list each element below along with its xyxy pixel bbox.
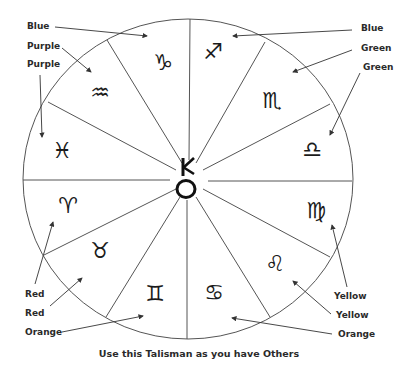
label-orange-cancer: Orange <box>338 329 375 339</box>
scorpio-icon: ♏ <box>262 88 282 113</box>
aquarius-icon: ♒ <box>90 80 110 105</box>
label-red-taurus: Red <box>25 308 44 318</box>
label-purple-aquarius: Purple <box>27 41 60 51</box>
label-blue-sagittarius: Blue <box>361 23 383 33</box>
label-yellow-virgo: Yellow <box>333 291 366 301</box>
label-green-scorpio: Green <box>361 43 391 53</box>
diagram-caption: Use this Talisman as you have Others <box>99 348 300 359</box>
leo-icon: ♌ <box>265 251 285 276</box>
label-yellow-leo: Yellow <box>335 310 368 320</box>
virgo-icon: ♍ <box>306 198 326 223</box>
label-red-aries: Red <box>25 289 44 299</box>
sagittarius-icon: ♐ <box>203 39 223 64</box>
libra-icon: ♎ <box>302 137 322 162</box>
chiron-center-symbol <box>177 158 195 198</box>
capricorn-icon: ♑ <box>153 50 173 75</box>
pisces-icon: ♓ <box>52 138 72 163</box>
taurus-icon: ♉ <box>90 238 110 263</box>
zodiac-wheel-circle <box>23 19 353 339</box>
gemini-icon: ♊ <box>145 281 165 306</box>
wheel-spokes <box>23 19 352 339</box>
cancer-icon: ♋ <box>204 280 224 305</box>
aries-icon: ♈ <box>58 193 78 218</box>
label-green-libra: Green <box>363 62 393 72</box>
talisman-diagram: ♑ ♐ ♏ ♎ ♍ ♌ ♋ ♊ ♉ ♈ ♓ ♒ Blue Purple Purp… <box>0 0 409 375</box>
label-blue-capricorn: Blue <box>27 21 49 31</box>
label-orange-gemini: Orange <box>25 327 62 337</box>
label-purple-pisces: Purple <box>27 59 60 69</box>
